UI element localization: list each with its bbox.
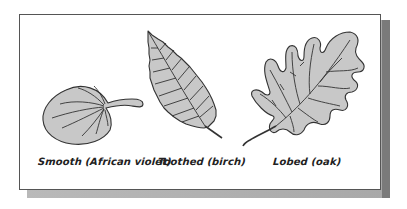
lobed-leaf-label: Lobed (oak)	[273, 156, 342, 167]
leaf-illustrations	[0, 0, 407, 209]
toothed-leaf-label: Toothed (birch)	[158, 156, 247, 167]
smooth-leaf-icon	[43, 86, 143, 144]
leaf-margin-figure: Smooth (African violet) Toothed (birch) …	[0, 0, 407, 209]
smooth-leaf-label: Smooth (African violet)	[38, 156, 172, 167]
toothed-leaf-icon	[148, 31, 222, 138]
lobed-leaf-icon	[243, 32, 364, 146]
